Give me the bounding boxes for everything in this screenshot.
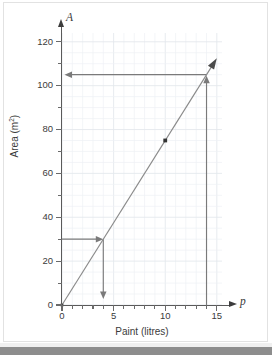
y-axis-arrowhead-icon (58, 19, 64, 27)
x-tick-minor (185, 305, 186, 310)
y-tick-major (56, 129, 63, 130)
page-edge-shadow (0, 347, 272, 355)
y-tick-minor (58, 283, 63, 284)
x-axis-symbol: p (240, 295, 246, 307)
screenshot-page: 020406080100120051015 A p Paint (litres)… (0, 0, 272, 355)
x-tick-minor (206, 305, 207, 310)
x-tick-label: 10 (150, 311, 180, 321)
x-tick-label: 0 (47, 311, 77, 321)
y-tick-minor (58, 107, 63, 108)
x-tick-minor (92, 305, 93, 310)
y-tick-label: 40 (13, 212, 53, 222)
data-layer (62, 33, 222, 305)
x-tick-label: 15 (202, 311, 232, 321)
y-tick-major (56, 41, 63, 42)
x-tick-minor (123, 305, 124, 310)
y-axis-line (61, 26, 62, 306)
y-axis-title-wrapper: Area (m2) (8, 96, 20, 176)
y-tick-minor (58, 151, 63, 152)
y-tick-major (56, 85, 63, 86)
y-tick-label: 100 (13, 80, 53, 90)
x-tick-label: 5 (99, 311, 129, 321)
x-tick-minor (134, 305, 135, 310)
plot-area (62, 33, 222, 305)
y-tick-label: 20 (13, 256, 53, 266)
x-tick-minor (196, 305, 197, 310)
x-tick-minor (82, 305, 83, 310)
y-tick-label: 0 (13, 300, 53, 310)
y-tick-major (56, 217, 63, 218)
x-tick-minor (103, 305, 104, 310)
x-axis-arrowhead-icon (229, 301, 237, 307)
x-tick-minor (72, 305, 73, 310)
x-tick-minor (175, 305, 176, 310)
y-tick-minor (58, 239, 63, 240)
y-axis-symbol: A (66, 11, 73, 23)
y-tick-major (56, 173, 63, 174)
x-axis-title: Paint (litres) (62, 326, 222, 337)
x-tick-minor (154, 305, 155, 310)
y-tick-minor (58, 195, 63, 196)
y-tick-minor (58, 63, 63, 64)
x-tick-minor (144, 305, 145, 310)
chart-figure: 020406080100120051015 A p Paint (litres)… (0, 0, 272, 355)
y-tick-major (56, 261, 63, 262)
y-axis-title: Area (m2) (9, 115, 20, 158)
y-tick-label: 120 (13, 37, 53, 47)
